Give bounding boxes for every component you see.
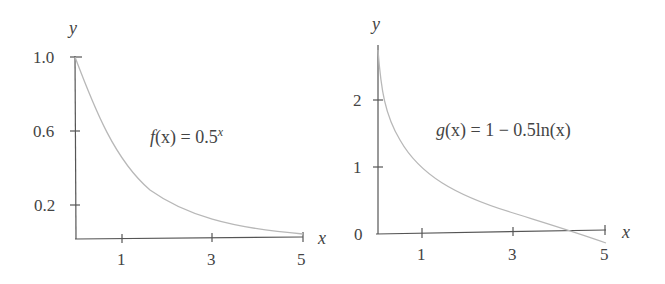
charts-canvas: y x 1.0 0.6 0.2 1 3 5 f(x) = 0.5x y x 2 … [0, 0, 665, 284]
left-x-tick-label: 3 [207, 250, 216, 269]
right-y-tick-label: 2 [353, 91, 362, 110]
right-y-axis-label: y [370, 14, 380, 34]
right-x-tick-label: 3 [508, 245, 517, 264]
right-x-tick-label: 5 [600, 245, 609, 264]
left-x-axis-label: x [317, 228, 326, 248]
right-y-tick-label: 1 [353, 158, 362, 177]
right-curve [378, 50, 606, 243]
left-formula: f(x) = 0.5x [150, 125, 224, 148]
left-y-tick-label: 0.2 [34, 196, 55, 215]
right-x-tick-label: 1 [417, 245, 426, 264]
left-y-axis-label: y [67, 18, 77, 38]
right-chart: y x 2 1 0 1 3 5 g(x) = 1 − 0.5ln(x) [353, 14, 630, 264]
right-formula: g(x) = 1 − 0.5ln(x) [436, 120, 571, 141]
left-chart: y x 1.0 0.6 0.2 1 3 5 f(x) = 0.5x [33, 18, 326, 269]
left-y-axis [75, 56, 76, 239]
right-x-axis-label: x [621, 222, 630, 242]
left-x-tick-label: 5 [297, 250, 306, 269]
left-x-tick-label: 1 [117, 250, 126, 269]
left-y-tick-label: 0.6 [33, 122, 54, 141]
left-x-axis [75, 237, 303, 239]
right-y-tick-label: 0 [354, 225, 363, 244]
left-y-tick-label: 1.0 [33, 48, 54, 67]
